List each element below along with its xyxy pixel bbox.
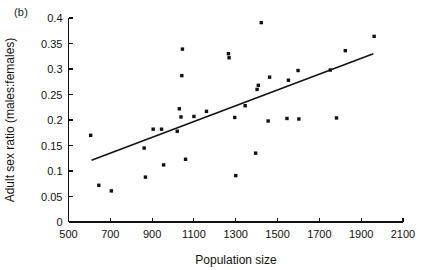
- y-axis-ticks: [69, 18, 74, 222]
- x-tick-label: 500: [59, 228, 77, 240]
- data-point: [162, 163, 165, 166]
- y-tick-label: 0.1: [47, 165, 62, 177]
- data-point: [296, 69, 299, 72]
- x-tick-label: 900: [143, 228, 161, 240]
- y-tick-label: 0.35: [41, 38, 62, 50]
- y-tick-label: 0.4: [47, 12, 62, 24]
- data-point: [243, 104, 246, 107]
- data-point: [285, 117, 288, 120]
- y-axis-title: Adult sex ratio (males:females): [3, 38, 17, 203]
- data-point: [329, 68, 332, 71]
- data-point: [144, 175, 147, 178]
- y-tick-label: 0.25: [41, 89, 62, 101]
- data-point: [227, 52, 230, 55]
- data-point: [257, 84, 260, 87]
- data-point: [254, 151, 257, 154]
- x-axis-tick-labels: 500700900110013001500170019002100: [59, 228, 415, 240]
- y-tick-label: 0.15: [41, 140, 62, 152]
- data-point: [297, 117, 300, 120]
- data-point: [255, 88, 258, 91]
- y-tick-label: 0.2: [47, 114, 62, 126]
- data-point: [179, 115, 182, 118]
- data-point: [180, 74, 183, 77]
- data-point: [233, 116, 236, 119]
- data-point: [234, 174, 237, 177]
- axes-group: [69, 18, 404, 222]
- y-tick-label: 0.05: [41, 191, 62, 203]
- x-tick-label: 1500: [265, 228, 289, 240]
- data-point: [266, 119, 269, 122]
- y-tick-label: 0.3: [47, 63, 62, 75]
- x-tick-label: 1900: [349, 228, 373, 240]
- x-tick-label: 1100: [182, 228, 206, 240]
- y-axis-tick-labels: 00.050.10.150.20.250.30.350.4: [41, 12, 62, 228]
- x-tick-label: 700: [101, 228, 119, 240]
- data-point: [160, 127, 163, 130]
- y-tick-label: 0: [56, 216, 62, 228]
- data-point: [110, 189, 113, 192]
- x-tick-label: 2100: [391, 228, 415, 240]
- x-axis-ticks: [69, 218, 404, 223]
- figure-panel-b: (b) 500700900110013001500170019002100 00…: [0, 0, 424, 270]
- data-point: [268, 75, 271, 78]
- data-point: [287, 79, 290, 82]
- data-point: [142, 146, 145, 149]
- x-tick-label: 1300: [224, 228, 248, 240]
- data-point: [260, 21, 263, 24]
- data-point: [205, 110, 208, 113]
- data-point: [176, 130, 179, 133]
- scatter-plot-canvas: 500700900110013001500170019002100 00.050…: [0, 0, 424, 270]
- data-point: [151, 127, 154, 130]
- data-point: [372, 35, 375, 38]
- data-point: [227, 56, 230, 59]
- data-point: [178, 107, 181, 110]
- data-point: [335, 116, 338, 119]
- data-point: [344, 49, 347, 52]
- data-point: [192, 115, 195, 118]
- data-point: [181, 47, 184, 50]
- data-point: [97, 184, 100, 187]
- data-point: [184, 158, 187, 161]
- data-point: [89, 134, 92, 137]
- x-tick-label: 1700: [307, 228, 331, 240]
- x-axis-title: Population size: [195, 253, 277, 267]
